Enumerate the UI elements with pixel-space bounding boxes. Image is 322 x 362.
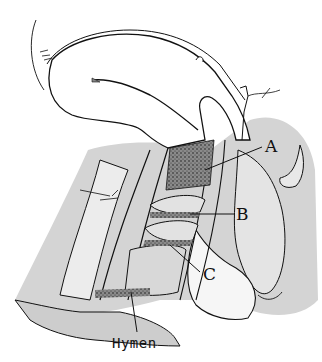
label-c: C bbox=[203, 266, 216, 283]
stippled-band-c bbox=[143, 240, 193, 246]
label-b: B bbox=[236, 206, 249, 223]
anatomical-illustration bbox=[0, 0, 322, 362]
label-hymen: Hymen bbox=[112, 336, 157, 350]
stippled-band-b bbox=[150, 212, 200, 218]
stippled-region-a bbox=[166, 140, 214, 190]
uterus-outline bbox=[31, 20, 250, 148]
label-a: A bbox=[265, 138, 277, 155]
